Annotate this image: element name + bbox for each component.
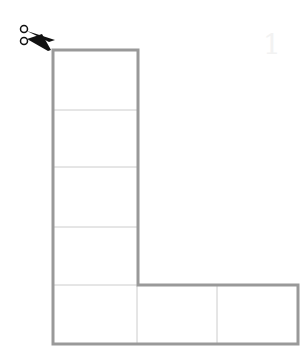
l-shape-outline: [53, 50, 298, 344]
scissors-icon: [21, 26, 56, 52]
diagram-canvas: 1: [0, 0, 305, 361]
inner-grid-lines: [54, 110, 217, 343]
watermark: 1: [263, 28, 281, 61]
